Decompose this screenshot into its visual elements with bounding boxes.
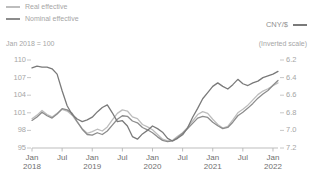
x-axis-tick-month: Jul [117,153,127,162]
x-axis-tick-month: Jan [206,153,219,162]
y-axis-left-tick: 98 [0,125,26,134]
y-axis-right-tick: 7.0 [286,125,296,134]
x-axis-tick-year: 2020 [132,162,172,171]
y-axis-left-tick: 107 [0,73,26,82]
y-axis-left-tick: 104 [0,90,26,99]
x-axis-tick-year: 2019 [72,162,112,171]
x-axis-tick-month: Jan [26,153,39,162]
series-line-cny [32,66,278,141]
x-axis-tick-month: Jul [57,153,67,162]
x-axis-tick-year: 2022 [253,162,293,171]
x-axis-tick-month: Jan [146,153,159,162]
x-axis-tick: Jan2022 [253,153,293,171]
y-axis-right-tick: 6.8 [286,108,296,117]
y-axis-right-tick: 7.2 [286,143,296,152]
y-axis-right-tick: 6.6 [286,90,296,99]
x-axis-tick-month: Jul [238,153,248,162]
y-axis-right-tick: 6.4 [286,73,296,82]
y-axis-left-tick: 101 [0,108,26,117]
x-axis-tick-month: Jan [86,153,99,162]
chart-container: Real effective Nominal effective CNY/$ J… [0,0,315,187]
x-axis-tick-month: Jul [177,153,187,162]
y-axis-left-tick: 110 [0,55,26,64]
y-axis-right-tick: 6.2 [286,55,296,64]
x-axis-tick-month: Jan [267,153,280,162]
series-line-real-effective [32,83,278,141]
x-axis-tick-year: 2021 [193,162,233,171]
y-axis-left-tick: 95 [0,143,26,152]
x-axis-tick-year: 2018 [12,162,52,171]
